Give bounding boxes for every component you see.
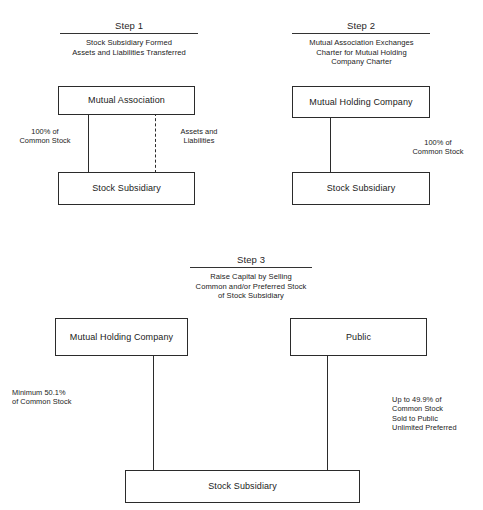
step-3-box-public: Public bbox=[290, 318, 427, 356]
step-2-box-mutual-holding-company-label: Mutual Holding Company bbox=[309, 97, 412, 108]
step-1-description-line-2: Assets and Liabilities Transferred bbox=[38, 48, 220, 58]
step-3-box-mutual-holding-company: Mutual Holding Company bbox=[55, 318, 188, 356]
step-1-note-assets-liabilities-line-1: Assets and bbox=[168, 127, 230, 136]
step-3-description-line-1: Raise Capital by Selling bbox=[166, 272, 336, 282]
step-1-box-mutual-association: Mutual Association bbox=[58, 86, 195, 115]
step-2-box-mutual-holding-company: Mutual Holding Company bbox=[292, 86, 430, 118]
step-3-note-public-ownership-line-2: Common Stock bbox=[392, 404, 483, 413]
step-1-box-stock-subsidiary-label: Stock Subsidiary bbox=[92, 183, 161, 194]
step-3-rule bbox=[190, 267, 312, 268]
step-3-description: Raise Capital by Selling Common and/or P… bbox=[166, 272, 336, 301]
step-3-box-stock-subsidiary: Stock Subsidiary bbox=[125, 470, 360, 503]
step-3-box-stock-subsidiary-label: Stock Subsidiary bbox=[208, 481, 277, 492]
step-1-box-mutual-association-label: Mutual Association bbox=[88, 95, 165, 106]
step-3-note-mhc-ownership: Minimum 50.1% of Common Stock bbox=[12, 388, 112, 407]
step-3-mhc-ownership-connector bbox=[153, 355, 154, 471]
step-1-rule bbox=[60, 33, 198, 34]
step-1-title: Step 1 bbox=[60, 20, 198, 31]
step-2-note-common-stock-line-2: Common Stock bbox=[400, 147, 476, 156]
step-1-common-stock-connector bbox=[88, 113, 89, 173]
step-3-title: Step 3 bbox=[190, 254, 312, 265]
step-2-note-common-stock: 100% of Common Stock bbox=[400, 138, 476, 157]
mhc-reorganization-diagram: Step 1 Stock Subsidiary Formed Assets an… bbox=[0, 0, 483, 510]
step-1-note-common-stock-line-1: 100% of bbox=[8, 127, 82, 136]
step-3-description-line-2: Common and/or Preferred Stock bbox=[166, 282, 336, 292]
step-1-description-line-1: Stock Subsidiary Formed bbox=[38, 38, 220, 48]
step-1-box-stock-subsidiary: Stock Subsidiary bbox=[58, 172, 195, 205]
step-2-box-stock-subsidiary: Stock Subsidiary bbox=[292, 172, 430, 205]
step-2-title: Step 2 bbox=[292, 20, 430, 31]
step-1-description: Stock Subsidiary Formed Assets and Liabi… bbox=[38, 38, 220, 57]
step-2-description: Mutual Association Exchanges Charter for… bbox=[283, 38, 440, 67]
step-3-note-public-ownership-line-1: Up to 49.9% of bbox=[392, 395, 483, 404]
step-1-assets-liabilities-connector bbox=[155, 113, 156, 173]
step-3-box-public-label: Public bbox=[346, 332, 371, 343]
step-3-note-mhc-ownership-line-1: Minimum 50.1% bbox=[12, 388, 112, 397]
step-2-description-line-1: Mutual Association Exchanges bbox=[283, 38, 440, 48]
step-3-note-public-ownership: Up to 49.9% of Common Stock Sold to Publ… bbox=[392, 395, 483, 433]
step-2-note-common-stock-line-1: 100% of bbox=[400, 138, 476, 147]
step-3-note-public-ownership-line-3: Sold to Public bbox=[392, 414, 483, 423]
step-3-note-mhc-ownership-line-2: of Common Stock bbox=[12, 397, 112, 406]
step-3-description-line-3: of Stock Subsidiary bbox=[166, 291, 336, 301]
step-1-note-common-stock: 100% of Common Stock bbox=[8, 127, 82, 146]
step-1-note-common-stock-line-2: Common Stock bbox=[8, 136, 82, 145]
step-1-note-assets-liabilities: Assets and Liabilities bbox=[168, 127, 230, 146]
step-3-public-ownership-connector bbox=[327, 355, 328, 471]
step-2-box-stock-subsidiary-label: Stock Subsidiary bbox=[327, 183, 396, 194]
step-2-description-line-2: Charter for Mutual Holding bbox=[283, 48, 440, 58]
step-2-description-line-3: Company Charter bbox=[283, 57, 440, 67]
step-2-rule bbox=[292, 33, 430, 34]
step-3-box-mutual-holding-company-label: Mutual Holding Company bbox=[70, 332, 173, 343]
step-2-common-stock-connector bbox=[330, 117, 331, 173]
step-1-note-assets-liabilities-line-2: Liabilities bbox=[168, 136, 230, 145]
step-3-note-public-ownership-line-4: Unlimited Preferred bbox=[392, 423, 483, 432]
